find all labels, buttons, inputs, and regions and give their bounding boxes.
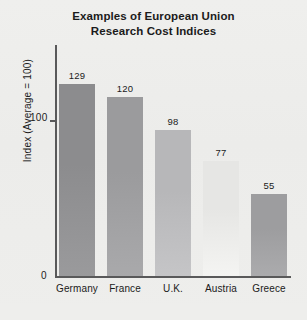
x-axis-category-labels: GermanyFranceU.K.AustriaGreece (55, 283, 295, 299)
x-axis-label-germany: Germany (51, 283, 103, 294)
bar-greece: 55 (251, 194, 287, 276)
chart-title-line-2: Research Cost Indices (0, 24, 307, 39)
bar-france: 120 (107, 97, 143, 276)
bar-germany: 129 (59, 84, 95, 276)
page-bottom-margin (0, 304, 307, 320)
x-axis-label-france: France (99, 283, 151, 294)
bar-series: 129120987755 (55, 45, 291, 276)
y-axis-tick-label-0: 0 (41, 270, 47, 281)
x-axis-label-greece: Greece (243, 283, 295, 294)
chart-title: Examples of European Union Research Cost… (0, 9, 307, 38)
x-axis-label-austria: Austria (195, 283, 247, 294)
bar-value-label: 55 (251, 180, 287, 191)
y-axis-tick-label-100: 100 (30, 112, 48, 123)
x-axis-line (55, 276, 291, 278)
chart-title-line-1: Examples of European Union (72, 10, 234, 22)
bar-value-label: 129 (59, 70, 95, 81)
bar-austria: 77 (203, 161, 239, 276)
y-axis-title: Index (Average = 100) (22, 26, 33, 196)
bar-value-label: 98 (155, 116, 191, 127)
bar-value-label: 77 (203, 147, 239, 158)
bar-value-label: 120 (107, 83, 143, 94)
plot-area: 129120987755 (55, 45, 291, 277)
x-axis-label-uk: U.K. (147, 283, 199, 294)
bar-uk: 98 (155, 130, 191, 276)
